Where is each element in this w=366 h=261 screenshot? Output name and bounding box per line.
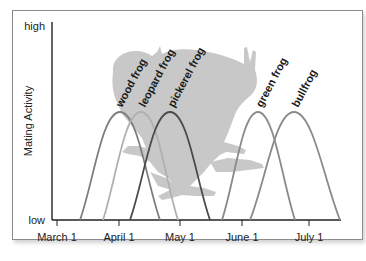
y-tick-label-low: low bbox=[28, 214, 45, 226]
y-tick-label-high: high bbox=[24, 20, 45, 32]
y-axis-label: Mating Activity bbox=[22, 85, 34, 156]
x-tick-label-march: March 1 bbox=[37, 231, 77, 243]
x-tick-label-april: April 1 bbox=[103, 231, 134, 243]
series-curve-bullfrog bbox=[250, 112, 340, 220]
series-label-green-frog: green frog bbox=[253, 55, 289, 109]
x-ticks bbox=[57, 220, 309, 226]
series-label-bullfrog: bullfrog bbox=[289, 67, 319, 109]
x-tick-label-july: July 1 bbox=[295, 231, 324, 243]
x-tick-label-may: May 1 bbox=[165, 231, 195, 243]
chart: March 1 April 1 May 1 June 1 July 1 high… bbox=[0, 0, 366, 261]
x-tick-label-june: June 1 bbox=[225, 231, 258, 243]
